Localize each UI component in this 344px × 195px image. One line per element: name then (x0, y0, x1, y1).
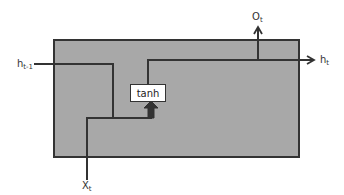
input-label-base: X (82, 180, 89, 191)
prev-hidden-label-sub: t-1 (23, 63, 33, 71)
output-label-base: O (252, 11, 260, 22)
output-label-sub: t (260, 16, 263, 24)
output-label: Ot (252, 12, 263, 24)
cell-body (54, 40, 299, 157)
input-label-sub: t (89, 185, 92, 193)
input-label: Xt (82, 181, 92, 193)
hidden-label-sub: t (326, 59, 329, 67)
tanh-node: tanh (130, 84, 166, 102)
prev-hidden-label: ht-1 (17, 59, 33, 71)
hidden-label: ht (320, 55, 329, 67)
rnn-cell-diagram (0, 0, 344, 195)
